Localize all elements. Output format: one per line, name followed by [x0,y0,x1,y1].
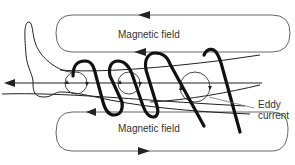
arrow-left-icon [4,79,15,87]
arrow-left-icon [134,48,146,56]
arrow-right-icon [138,11,150,19]
diagram-svg [0,0,295,165]
coil-winding [73,53,204,126]
arrow-right-icon [138,147,150,155]
magnetic-field-label-bottom: Magnetic field [118,123,180,134]
eddy-label-line1: Eddy [258,99,281,110]
eddy-label-line2: current [258,110,289,121]
arrow-left-icon [86,108,96,116]
magnetic-field-label-top: Magnetic field [118,29,180,40]
lower-leg-line [150,85,260,102]
eddy-current-label: Eddy current [258,99,294,121]
eddy-current-diagram: Magnetic field Magnetic field Eddy curre… [0,0,295,165]
